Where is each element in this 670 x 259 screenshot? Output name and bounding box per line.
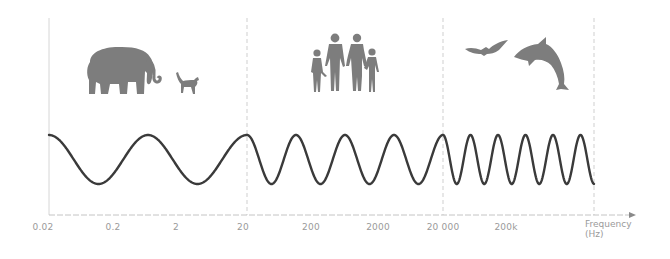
tick-label-0.02: 0.02	[33, 222, 54, 232]
tick-label-20000: 20 000	[427, 222, 460, 232]
cat-icon	[176, 72, 199, 94]
axis-title: Frequency (Hz)	[585, 219, 632, 239]
axis-title-line1: Frequency	[585, 219, 632, 229]
axis-title-line2: (Hz)	[585, 229, 632, 239]
tick-label-2: 2	[173, 222, 179, 232]
tick-label-0.2: 0.2	[106, 222, 121, 232]
tick-label-2000: 2000	[366, 222, 390, 232]
axis-arrow-icon	[629, 212, 636, 218]
family-icon	[311, 34, 379, 92]
frequency-diagram: 0.02 0.2 2 20 200 2000 20 000 200k Frequ…	[0, 0, 670, 259]
dolphin-icon	[514, 37, 569, 90]
sound-wave	[49, 135, 594, 184]
tick-label-200: 200	[302, 222, 320, 232]
diagram-canvas	[0, 0, 670, 259]
tick-label-20: 20	[237, 222, 249, 232]
tick-label-200k: 200k	[494, 222, 517, 232]
bat-icon	[465, 40, 508, 56]
elephant-icon	[87, 47, 160, 94]
